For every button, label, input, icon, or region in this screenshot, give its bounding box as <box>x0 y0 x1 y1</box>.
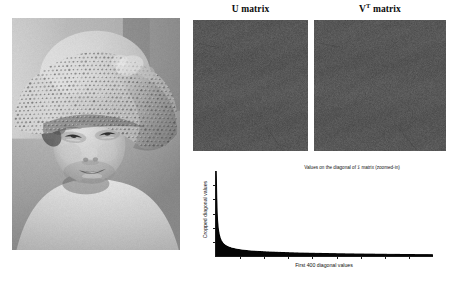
u-matrix-image-wrap <box>193 20 308 151</box>
svd-figure: U matrix VT matrix Values on the diagona… <box>0 0 450 288</box>
vt-matrix-title-base: V <box>359 4 366 14</box>
u-matrix-title: U matrix <box>193 4 308 16</box>
u-matrix-panel: U matrix <box>193 4 308 151</box>
x-axis-tick <box>409 256 410 259</box>
y-axis-tick <box>213 214 216 215</box>
u-matrix-noise-image <box>193 20 308 151</box>
vt-matrix-title: VT matrix <box>314 4 446 16</box>
x-axis-tick <box>385 256 386 259</box>
x-axis-tick <box>264 256 265 259</box>
original-photo-panel <box>12 18 180 250</box>
chart-y-axis-label: Cropped diagonal values <box>202 167 209 253</box>
y-axis-tick <box>213 242 216 243</box>
y-axis-tick <box>213 185 216 186</box>
vt-matrix-image-wrap <box>314 20 446 151</box>
y-axis-tick <box>213 199 216 200</box>
y-axis-tick <box>213 228 216 229</box>
original-grayscale-photo <box>12 18 180 250</box>
x-axis-tick <box>337 256 338 259</box>
singular-value-decay-curve <box>216 171 433 256</box>
chart-x-axis-label: First 400 diagonal values <box>215 262 433 269</box>
x-axis-tick <box>312 256 313 259</box>
x-axis-tick <box>361 256 362 259</box>
vt-matrix-title-suffix: matrix <box>370 4 401 14</box>
x-axis-tick <box>288 256 289 259</box>
vt-matrix-panel: VT matrix <box>314 4 446 151</box>
chart-plot-area <box>215 171 433 257</box>
sigma-diagonal-chart: Values on the diagonal of Σ matrix (zoom… <box>193 163 443 277</box>
vt-matrix-noise-image <box>314 20 446 151</box>
x-axis-tick <box>240 256 241 259</box>
